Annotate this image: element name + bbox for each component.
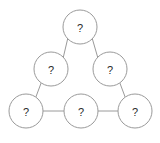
node-mid-right-label: ? xyxy=(107,64,113,76)
node-mid-left[interactable]: ? xyxy=(34,52,68,86)
node-bottom-right-label: ? xyxy=(132,106,138,118)
node-bottom-center-label: ? xyxy=(78,106,84,118)
node-mid-right[interactable]: ? xyxy=(93,52,127,86)
node-apex[interactable]: ? xyxy=(63,10,97,44)
node-bottom-left-label: ? xyxy=(23,106,29,118)
edge-mid-left-to-bottom-left xyxy=(36,83,42,98)
node-bottom-right[interactable]: ? xyxy=(118,94,152,128)
edge-apex-to-mid-left xyxy=(63,39,67,58)
node-group: ? ? ? ? ? ? xyxy=(9,10,152,128)
edge-apex-to-mid-right xyxy=(92,39,97,58)
triangle-puzzle-diagram: ? ? ? ? ? ? xyxy=(0,0,160,143)
node-bottom-left[interactable]: ? xyxy=(9,94,43,128)
node-mid-left-label: ? xyxy=(48,64,54,76)
edge-mid-right-to-bottom-right xyxy=(120,83,126,98)
node-apex-label: ? xyxy=(77,22,83,34)
diagram-canvas: ? ? ? ? ? ? xyxy=(0,0,160,143)
node-bottom-center[interactable]: ? xyxy=(64,94,98,128)
